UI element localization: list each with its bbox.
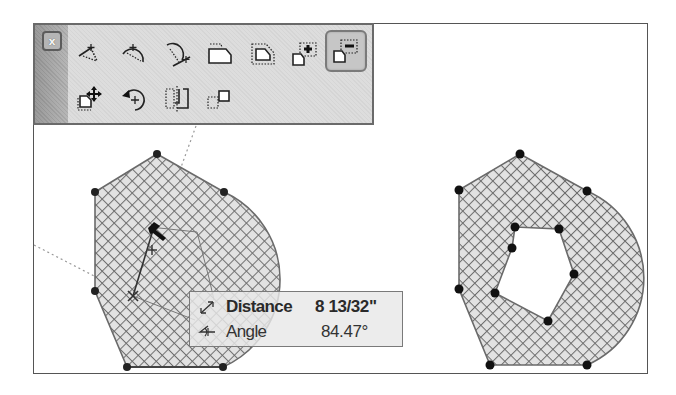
angle-tool-icon xyxy=(75,39,105,69)
hole-vertex-handle[interactable] xyxy=(511,223,520,232)
shape-add-button[interactable] xyxy=(288,37,322,71)
arc-tangent-tool-icon xyxy=(162,39,192,69)
distance-arrows-icon xyxy=(198,298,216,316)
distance-row: Distance 8 13/32" xyxy=(190,295,402,319)
arc-tangent-tool-button[interactable] xyxy=(160,37,194,71)
shape-rotate-icon xyxy=(119,84,149,114)
vertex-handle[interactable] xyxy=(153,150,161,158)
hole-vertex-handle[interactable] xyxy=(491,289,500,298)
hole-vertex-handle[interactable] xyxy=(555,225,564,234)
right-shape[interactable] xyxy=(455,150,644,370)
vertex-handle[interactable] xyxy=(583,361,592,370)
app-stage: x xyxy=(0,0,676,395)
vertex-handle[interactable] xyxy=(583,187,592,196)
distance-label: Distance xyxy=(226,297,292,317)
vertex-handle[interactable] xyxy=(123,363,131,371)
shape-mirror-icon xyxy=(162,84,192,114)
shape-subtract-icon xyxy=(331,36,361,66)
close-palette-button[interactable]: x xyxy=(42,31,62,51)
vertex-handle[interactable] xyxy=(486,361,495,370)
hole-vertex-handle[interactable] xyxy=(544,317,553,326)
shape-add-icon xyxy=(290,39,320,69)
close-icon: x xyxy=(48,36,55,47)
shape-move-button[interactable] xyxy=(73,82,107,116)
shape-move-icon xyxy=(75,84,105,114)
shape-copy-button[interactable] xyxy=(203,82,237,116)
shape-solid-button[interactable] xyxy=(203,37,237,71)
measurement-tooltip: Distance 8 13/32" Angle 84.47° xyxy=(189,291,403,347)
hole-vertex-handle[interactable] xyxy=(508,244,517,253)
distance-value: 8 13/32" xyxy=(315,297,377,317)
angle-label: Angle xyxy=(226,322,266,342)
vertex-handle[interactable] xyxy=(220,188,228,196)
shape-subtract-button[interactable] xyxy=(325,30,367,72)
hole-vertex-handle[interactable] xyxy=(570,270,579,279)
angle-tool-button[interactable] xyxy=(73,37,107,71)
shape-offset-icon xyxy=(248,39,278,69)
vertex-handle[interactable] xyxy=(91,287,99,295)
shape-solid-icon xyxy=(205,39,235,69)
arc-angle-tool-icon xyxy=(119,39,149,69)
vertex-handle[interactable] xyxy=(455,186,464,195)
angle-value: 84.47° xyxy=(321,322,368,342)
angle-icon xyxy=(198,323,216,341)
vertex-handle[interactable] xyxy=(516,150,525,159)
shape-offset-button[interactable] xyxy=(246,37,280,71)
vertex-handle[interactable] xyxy=(219,363,227,371)
shape-rotate-button[interactable] xyxy=(117,82,151,116)
shape-copy-icon xyxy=(205,84,235,114)
shape-mirror-button[interactable] xyxy=(160,82,194,116)
vertex-handle[interactable] xyxy=(91,188,99,196)
vertex-handle[interactable] xyxy=(455,285,464,294)
angle-row: Angle 84.47° xyxy=(190,320,402,344)
arc-angle-tool-button[interactable] xyxy=(117,37,151,71)
shape-tools-palette[interactable]: x xyxy=(33,23,374,125)
